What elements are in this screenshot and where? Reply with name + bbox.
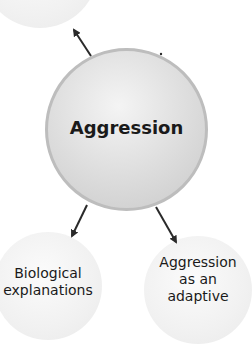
- bottom-left-label-line-2: explanations: [0, 282, 100, 299]
- bottom-right-label-line-1: Aggression: [146, 254, 250, 271]
- bottom-right-label-line-2: as an: [146, 271, 250, 288]
- arrow-to-top-left: [74, 30, 91, 56]
- arrow-to-bottom-right: [156, 207, 176, 242]
- bottom-right-label: Aggression as an adaptive: [146, 254, 250, 305]
- center-label: Aggression: [45, 117, 208, 138]
- bottom-right-label-line-3: adaptive: [146, 288, 250, 305]
- arrow-to-bottom-left: [72, 205, 87, 236]
- bottom-left-label-line-1: Biological: [0, 265, 100, 282]
- bottom-left-label: Biological explanations: [0, 265, 100, 299]
- small-dot: [160, 53, 162, 55]
